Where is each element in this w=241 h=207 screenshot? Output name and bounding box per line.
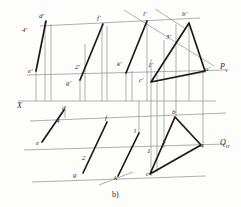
label-f: f [105, 115, 107, 122]
pv-subscript: V [225, 68, 228, 73]
label-2-prime: 2' [75, 64, 80, 71]
label-1: 1 [147, 148, 151, 155]
label-e-prime: e' [28, 68, 33, 75]
lower-parallel-guide-2 [32, 176, 206, 182]
figure-caption: b) [112, 190, 119, 199]
segment-k-l-front [126, 21, 147, 73]
figure-container: d' 4' f' l' b' 3' e' 2' g' k' 1' c' a' d… [0, 0, 241, 207]
label-b-prime: b' [182, 11, 187, 18]
segment-e-d-top [42, 110, 64, 142]
label-b: b [172, 109, 176, 116]
label-c-prime: c' [139, 77, 144, 84]
label-4: 4 [56, 118, 60, 125]
label-a-prime: a' [205, 66, 210, 73]
label-2: 2 [82, 155, 86, 162]
descriptive-geometry-drawing [0, 0, 241, 207]
label-pv-trace: PV [220, 63, 228, 73]
label-e: e [36, 140, 39, 147]
construction-lines [18, 9, 226, 185]
label-4-prime: 4' [22, 27, 27, 34]
label-x-axis: X [17, 102, 22, 110]
label-d-prime: d' [39, 13, 44, 20]
label-l-prime: l' [143, 11, 146, 18]
label-a: a [200, 142, 204, 149]
label-k-prime: k' [117, 61, 122, 68]
segment-k-l-top [118, 133, 139, 176]
label-k: k [114, 175, 117, 182]
label-d: d [62, 105, 66, 112]
label-g-prime: g' [66, 80, 71, 87]
label-3: 3 [162, 139, 166, 146]
label-f-prime: f' [97, 15, 100, 22]
label-qh-trace: QH [220, 139, 229, 149]
segment-g-f-front [80, 24, 103, 80]
qh-trace-line [24, 144, 226, 150]
label-3-prime: 3' [166, 34, 171, 41]
qh-subscript: H [226, 144, 230, 149]
segment-e-d-front [36, 21, 46, 71]
label-1-prime: 1' [148, 62, 153, 69]
label-l: l [134, 128, 136, 135]
label-c: c [146, 171, 149, 178]
label-g: g [73, 172, 77, 179]
